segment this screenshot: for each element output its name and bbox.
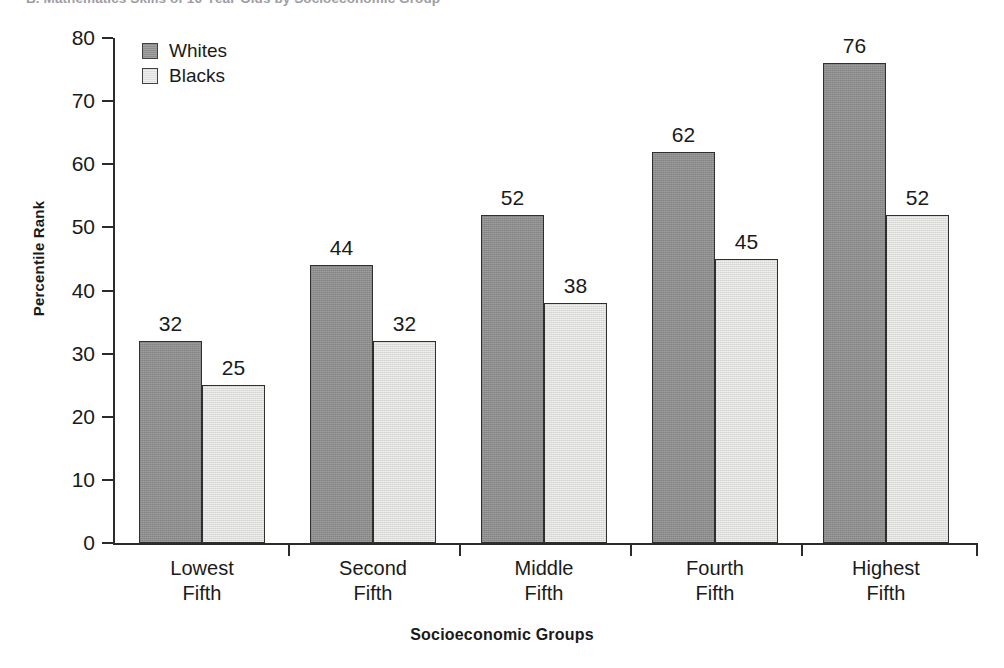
category-label-line2: Fifth	[283, 581, 463, 606]
bar-blacks-lowest-fifth	[202, 385, 265, 543]
x-axis-category-label: HighestFifth	[796, 556, 976, 606]
bar-value-label: 32	[365, 313, 445, 334]
y-axis-line	[113, 38, 115, 545]
y-axis-tick	[102, 100, 113, 102]
x-axis-category-label: SecondFifth	[283, 556, 463, 606]
legend-label-whites: Whites	[169, 41, 227, 60]
chart-legend: Whites Blacks	[142, 38, 227, 88]
x-axis-tick	[459, 545, 461, 556]
bar-value-label: 76	[815, 35, 895, 56]
bar-blacks-highest-fifth	[886, 215, 949, 543]
y-axis-tick	[102, 353, 113, 355]
x-axis-category-label: LowestFifth	[112, 556, 292, 606]
y-axis-tick	[102, 37, 113, 39]
category-label-line1: Highest	[796, 556, 976, 581]
bar-value-label: 38	[536, 275, 616, 296]
category-label-line1: Second	[283, 556, 463, 581]
legend-label-blacks: Blacks	[169, 66, 225, 85]
bar-value-label: 52	[473, 187, 553, 208]
bar-value-label: 25	[194, 357, 274, 378]
bar-whites-fourth-fifth	[652, 152, 715, 543]
x-axis-tick	[630, 545, 632, 556]
y-axis-tick-label: 80	[35, 27, 95, 48]
plot-area: 01020304050607080 32254432523862457652	[113, 38, 978, 545]
x-axis-end-tick	[976, 545, 978, 556]
y-axis-tick	[102, 416, 113, 418]
category-label-line2: Fifth	[112, 581, 292, 606]
legend-item-whites: Whites	[142, 38, 227, 63]
x-axis-line	[113, 543, 978, 545]
y-axis-tick	[102, 479, 113, 481]
x-axis-category-label: FourthFifth	[625, 556, 805, 606]
y-axis-tick	[102, 542, 113, 544]
legend-swatch-icon-whites	[142, 43, 158, 59]
bar-chart-figure: B. Mathematics Skills of 16-Year-Olds by…	[0, 0, 1004, 668]
bar-whites-second-fifth	[310, 265, 373, 543]
y-axis-title: Percentile Rank	[30, 159, 47, 359]
x-axis-title: Socioeconomic Groups	[0, 626, 1004, 644]
x-axis-tick	[801, 545, 803, 556]
y-axis-tick-label: 40	[35, 280, 95, 301]
y-axis-tick-label: 50	[35, 216, 95, 237]
chart-title: B. Mathematics Skills of 16-Year-Olds by…	[26, 0, 706, 7]
bar-blacks-fourth-fifth	[715, 259, 778, 543]
category-label-line2: Fifth	[625, 581, 805, 606]
y-axis-tick-label: 10	[35, 469, 95, 490]
y-axis-tick-label: 60	[35, 153, 95, 174]
y-axis-tick-label: 30	[35, 343, 95, 364]
bar-whites-middle-fifth	[481, 215, 544, 543]
y-axis-tick-label: 0	[35, 532, 95, 553]
category-label-line2: Fifth	[454, 581, 634, 606]
category-label-line1: Fourth	[625, 556, 805, 581]
bar-blacks-second-fifth	[373, 341, 436, 543]
y-axis-tick	[102, 163, 113, 165]
bar-value-label: 32	[131, 313, 211, 334]
x-axis-tick	[288, 545, 290, 556]
y-axis-tick	[102, 290, 113, 292]
x-axis-category-label: MiddleFifth	[454, 556, 634, 606]
bar-blacks-middle-fifth	[544, 303, 607, 543]
bar-value-label: 62	[644, 124, 724, 145]
y-axis-tick-label: 20	[35, 406, 95, 427]
legend-item-blacks: Blacks	[142, 63, 227, 88]
y-axis-tick-label: 70	[35, 90, 95, 111]
bar-value-label: 52	[878, 187, 958, 208]
legend-swatch-icon-blacks	[142, 68, 158, 84]
y-axis-tick	[102, 226, 113, 228]
bar-whites-highest-fifth	[823, 63, 886, 543]
bar-value-label: 45	[707, 231, 787, 252]
category-label-line1: Middle	[454, 556, 634, 581]
category-label-line1: Lowest	[112, 556, 292, 581]
bar-value-label: 44	[302, 237, 382, 258]
category-label-line2: Fifth	[796, 581, 976, 606]
